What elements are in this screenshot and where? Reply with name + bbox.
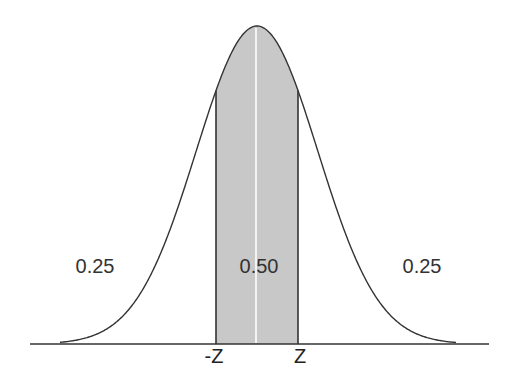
left-tail-area-label: 0.25 <box>76 255 115 277</box>
normal-distribution-diagram: 0.25 0.50 0.25 -Z Z <box>0 0 518 387</box>
pos-z-label: Z <box>294 345 306 367</box>
center-area-label: 0.50 <box>240 255 279 277</box>
neg-z-label: -Z <box>205 345 224 367</box>
diagram-canvas: 0.25 0.50 0.25 -Z Z <box>0 0 518 387</box>
central-area-shading <box>216 26 298 344</box>
right-tail-area-label: 0.25 <box>403 255 442 277</box>
